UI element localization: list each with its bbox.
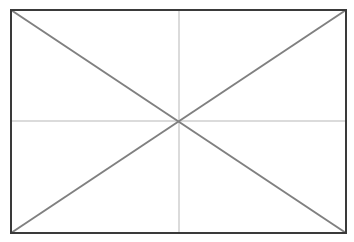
rectangle-with-diagonals-diagram <box>0 0 354 242</box>
